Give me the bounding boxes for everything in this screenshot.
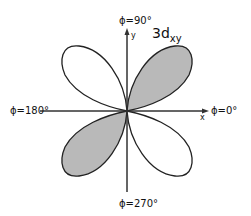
angle-label-top: ϕ=90° (119, 16, 152, 26)
lobe-lower-left (62, 111, 127, 176)
orbital-title-main: 3d (152, 25, 170, 41)
lobe-upper-right (127, 46, 192, 111)
lobe-upper-left (62, 46, 127, 111)
orbital-title: 3dxy (152, 26, 182, 44)
angle-label-right: ϕ=0° (211, 106, 237, 116)
x-axis-label: x (200, 114, 205, 122)
angle-label-left: ϕ=180° (10, 106, 49, 116)
y-axis-label: y (131, 32, 136, 40)
orbital-title-subscript: xy (170, 33, 182, 44)
angle-label-bottom: ϕ=270° (119, 199, 158, 209)
lobe-lower-right (127, 111, 192, 176)
